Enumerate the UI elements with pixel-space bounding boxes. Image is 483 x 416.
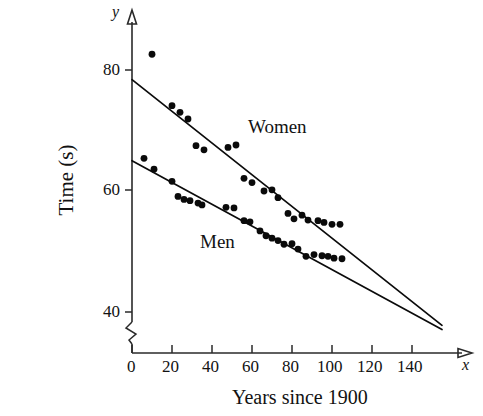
data-point (337, 221, 344, 228)
data-point (315, 217, 322, 224)
data-point (241, 175, 248, 182)
scatter-chart: 80 60 40 0 20 40 60 80 100 120 140 y x T… (0, 0, 483, 416)
data-point (319, 252, 326, 259)
y-axis-break-icon (126, 322, 136, 344)
data-point (339, 255, 346, 262)
data-point (305, 217, 312, 224)
y-axis-arrowhead (128, 10, 137, 24)
data-point (247, 218, 254, 225)
data-point (321, 219, 328, 226)
data-point (185, 116, 192, 123)
data-point (303, 253, 310, 260)
data-point (275, 237, 282, 244)
data-point (261, 188, 268, 195)
y-tick-label-60: 60 (103, 181, 120, 198)
data-point (263, 232, 270, 239)
data-point (151, 166, 158, 173)
y-axis (125, 10, 137, 353)
data-point (231, 205, 238, 212)
y-axis-title: Time (s) (46, 110, 86, 250)
data-point (295, 246, 302, 253)
data-point (223, 204, 230, 211)
data-point (331, 255, 338, 262)
data-point (281, 241, 288, 248)
data-point (169, 102, 176, 109)
x-tick-label-20: 20 (162, 358, 179, 375)
data-point (177, 109, 184, 116)
data-point (175, 193, 182, 200)
x-tick-label-60: 60 (242, 358, 259, 375)
x-tick-label-80: 80 (282, 358, 299, 375)
series-label-men: Men (200, 232, 235, 251)
data-point (149, 51, 156, 58)
data-point (289, 240, 296, 247)
data-point (225, 144, 232, 151)
data-point (199, 202, 206, 209)
data-point (141, 155, 148, 162)
data-point (311, 251, 318, 258)
data-point (285, 210, 292, 217)
data-point (275, 194, 282, 201)
data-point (269, 186, 276, 193)
data-point (193, 142, 200, 149)
y-axis-title-text: Time (s) (54, 145, 79, 216)
y-axis-variable-label: y (112, 4, 119, 20)
data-point (299, 212, 306, 219)
x-tick-label-0: 0 (127, 358, 136, 375)
x-axis (132, 345, 472, 358)
series-label-women: Women (248, 117, 307, 136)
x-tick-label-100: 100 (317, 358, 343, 375)
data-point (249, 179, 256, 186)
data-point (257, 228, 264, 235)
data-point (269, 235, 276, 242)
x-tick-label-140: 140 (397, 358, 423, 375)
data-point (169, 178, 176, 185)
data-point (187, 197, 194, 204)
data-point (233, 142, 240, 149)
data-point (291, 215, 298, 222)
y-tick-label-40: 40 (103, 303, 120, 320)
x-tick-label-40: 40 (202, 358, 219, 375)
data-point (201, 146, 208, 153)
data-point (181, 196, 188, 203)
data-point (325, 253, 332, 260)
y-tick-label-80: 80 (103, 61, 120, 78)
data-points-layer (141, 51, 346, 262)
x-axis-title: Years since 1900 (232, 387, 368, 407)
data-point (241, 217, 248, 224)
data-point (329, 221, 336, 228)
x-axis-variable-label: x (462, 357, 469, 373)
x-tick-label-120: 120 (357, 358, 383, 375)
